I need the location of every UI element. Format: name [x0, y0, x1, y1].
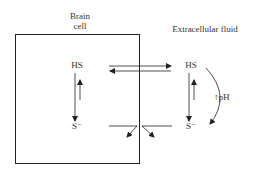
s-outer-deflect-arrow [142, 126, 154, 137]
cell-s-label: S⁻ [72, 122, 82, 131]
brain-cell-label-line2: cell [74, 22, 87, 31]
ph-increase-label: ↑pH [214, 93, 230, 102]
ecf-s-label: S⁻ [186, 122, 196, 131]
cell-hs-label: HS [71, 61, 83, 70]
brain-cell-label-line1: Brain [70, 12, 90, 21]
ecf-hs-label: HS [185, 61, 197, 70]
s-inner-deflect-arrow [127, 126, 137, 137]
brain-cell-box [16, 35, 140, 164]
extracellular-fluid-label: Extracellular fluid [172, 25, 238, 34]
